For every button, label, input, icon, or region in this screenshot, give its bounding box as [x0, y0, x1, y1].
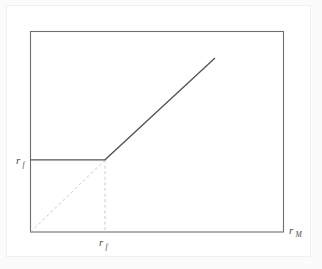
rf-y-axis-base: r — [16, 154, 21, 166]
plot-frame — [31, 32, 284, 233]
rf-y-axis-tick-label: r f — [16, 154, 26, 169]
rf-x-axis-subscript: f — [106, 242, 109, 251]
rm-x-axis-end-label: r M — [289, 224, 303, 239]
figure-card: r f r f r M — [0, 0, 322, 269]
rm-base: r — [289, 224, 294, 236]
rm-subscript: M — [295, 230, 303, 239]
rf-x-axis-base: r — [99, 236, 104, 248]
rf-x-axis-tick-label: r f — [99, 236, 109, 251]
reference-45-degree-dashed-line — [31, 160, 106, 232]
rf-y-axis-subscript: f — [23, 160, 26, 169]
chart-canvas: r f r f r M — [0, 0, 322, 269]
payoff-kinked-line — [31, 58, 216, 160]
